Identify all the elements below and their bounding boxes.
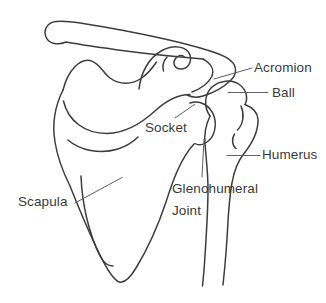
scapula-contour-line: [68, 137, 138, 151]
bicipital-groove-line-upper: [238, 106, 244, 130]
bone-outlines: [45, 21, 258, 286]
humerus-label: Humerus: [262, 147, 317, 163]
shoulder-anatomy-diagram: Acromion Ball Socket Humerus Glenohumera…: [0, 0, 326, 303]
glenohumeral-joint-label: Glenohumeral Joint: [172, 178, 264, 222]
acromion-fold-line: [192, 59, 213, 92]
coracoid-inner-line: [163, 57, 167, 71]
bicipital-groove-line-lower: [233, 134, 236, 149]
acromion-label: Acromion: [254, 60, 312, 76]
glenoid-socket-outline: [190, 102, 215, 145]
ball-label: Ball: [272, 85, 295, 101]
clavicle-outline: [45, 21, 231, 61]
socket-label: Socket: [145, 120, 187, 136]
scapula-label: Scapula: [18, 194, 68, 210]
socket-leader-line: [175, 105, 195, 119]
scapula-inner-border-line: [81, 176, 113, 266]
